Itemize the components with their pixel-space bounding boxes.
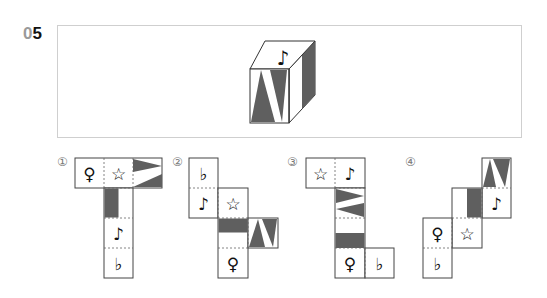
option-2-net[interactable]: ♭ ♪ ☆ ♀ <box>189 158 278 278</box>
star-symbol: ☆ <box>111 164 126 184</box>
flat-symbol: ♭ <box>375 254 383 274</box>
star-symbol: ☆ <box>459 224 474 244</box>
note-symbol: ♪ <box>113 224 124 244</box>
note-symbol: ♪ <box>345 164 356 184</box>
flat-symbol: ♭ <box>433 254 441 274</box>
option-4-net[interactable]: ♀ ☆ ♪ ♭ <box>423 158 511 278</box>
flat-symbol: ♭ <box>199 164 207 184</box>
venus-symbol: ♀ <box>431 224 443 244</box>
star-symbol: ☆ <box>313 164 328 184</box>
venus-symbol: ♀ <box>227 254 239 274</box>
flat-symbol: ♭ <box>114 254 122 274</box>
option-3-net[interactable]: ☆ ♪ ♀ ♭ <box>306 158 394 278</box>
note-symbol: ♪ <box>198 194 209 214</box>
venus-symbol: ♀ <box>344 254 356 274</box>
option-nets: .c { fill:#fff; stroke:#444; stroke-widt… <box>0 0 547 298</box>
option-1-net[interactable]: ♀ ☆ ♪ ♭ <box>75 158 162 278</box>
note-symbol: ♪ <box>491 194 502 214</box>
star-symbol: ☆ <box>225 194 240 214</box>
venus-symbol: ♀ <box>83 164 95 184</box>
